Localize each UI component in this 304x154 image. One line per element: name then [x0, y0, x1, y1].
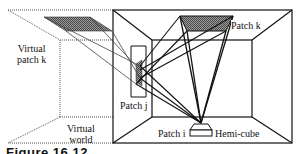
- label-virtual-world-line1: Virtual: [67, 123, 95, 134]
- virtual-patch-k: [44, 17, 112, 31]
- label-patch-k: Patch k: [231, 20, 261, 31]
- label-hemi-cube: Hemi-cube: [215, 128, 259, 139]
- label-virtual-patch-k: Virtual patch k: [17, 43, 46, 65]
- label-virtual-patch-k-line1: Virtual: [17, 43, 46, 54]
- label-virtual-world-line2: world: [67, 134, 95, 145]
- patch-k: [180, 16, 233, 31]
- label-patch-j: Patch j: [120, 100, 148, 111]
- label-virtual-world: Virtual world: [67, 123, 95, 145]
- label-patch-i: Patch i: [158, 128, 186, 139]
- rays-reflected: [136, 16, 233, 123]
- figure-caption: Figure 16.12: [6, 145, 88, 154]
- label-virtual-patch-k-line2: patch k: [17, 54, 46, 65]
- hemi-cube: [190, 124, 212, 136]
